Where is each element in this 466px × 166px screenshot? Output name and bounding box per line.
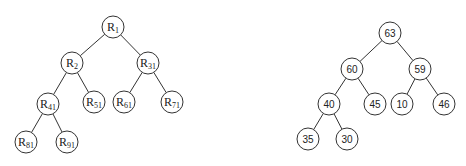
- node-label: 35: [302, 134, 314, 145]
- tree-edge: [314, 113, 324, 129]
- tree-node: 45: [364, 93, 386, 115]
- node-label: 63: [384, 28, 396, 39]
- node-label: 40: [323, 99, 335, 110]
- tree-edge: [53, 114, 62, 132]
- node-label: 10: [396, 99, 408, 110]
- tree-edge: [358, 78, 369, 95]
- left-tree-r-labels: R1R2R31R41R51R61R71R81R91: [15, 16, 183, 153]
- node-label: 60: [346, 64, 358, 75]
- node-label: 30: [341, 134, 353, 145]
- tree-node: R1: [102, 16, 124, 38]
- tree-edge: [80, 34, 104, 55]
- node-label: 59: [414, 64, 426, 75]
- tree-diagram-canvas: R1R2R31R41R51R61R71R81R91 63605940451046…: [0, 0, 466, 166]
- right-tree-edges: [314, 41, 438, 130]
- tree-edge: [121, 35, 141, 55]
- tree-node: 60: [341, 58, 363, 80]
- tree-edge: [54, 72, 67, 94]
- tree-node: 35: [297, 128, 319, 150]
- tree-edge: [154, 72, 166, 92]
- tree-edge: [335, 78, 346, 95]
- tree-edge: [397, 41, 413, 60]
- tree-edge: [334, 114, 342, 129]
- tree-node: 10: [391, 93, 413, 115]
- tree-node: 40: [318, 93, 340, 115]
- tree-node: 30: [336, 128, 358, 150]
- tree-edge: [130, 72, 142, 92]
- tree-node: R71: [161, 91, 183, 113]
- tree-node: R61: [113, 91, 135, 113]
- tree-node: R81: [15, 131, 37, 153]
- node-label: 45: [369, 99, 381, 110]
- tree-node: R2: [61, 52, 83, 74]
- tree-edge: [407, 79, 415, 94]
- right-tree-values: 636059404510463530: [297, 22, 455, 150]
- tree-node: R31: [137, 52, 159, 74]
- tree-edge: [32, 114, 43, 133]
- tree-node: R91: [56, 131, 78, 153]
- left-tree-nodes: R1R2R31R41R51R61R71R81R91: [15, 16, 183, 153]
- tree-node: 59: [409, 58, 431, 80]
- tree-edge: [360, 41, 382, 62]
- tree-node: 46: [433, 93, 455, 115]
- tree-node: R41: [37, 93, 59, 115]
- tree-node: 63: [379, 22, 401, 44]
- tree-edge: [77, 73, 88, 93]
- node-label: 46: [438, 99, 450, 110]
- tree-edge: [426, 78, 438, 95]
- tree-node: R51: [83, 91, 105, 113]
- left-tree-edges: [32, 34, 167, 132]
